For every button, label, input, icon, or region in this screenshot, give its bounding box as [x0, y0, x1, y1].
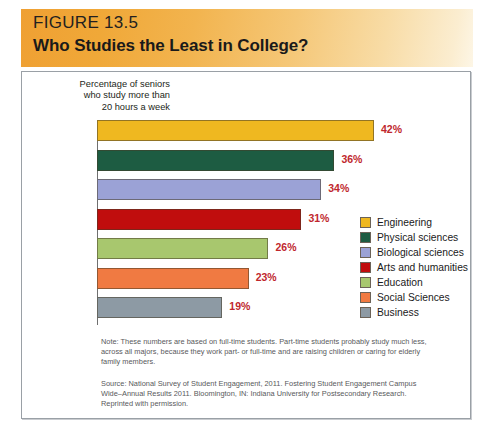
legend-swatch-icon: [360, 262, 371, 273]
bar-arts-and-humanities[interactable]: [97, 209, 301, 230]
bar-physical-sciences[interactable]: [97, 150, 334, 171]
legend-label: Education: [377, 277, 423, 288]
legend-item[interactable]: Physical sciences: [360, 230, 468, 245]
legend-item[interactable]: Social Sciences: [360, 290, 468, 305]
legend-swatch-icon: [360, 217, 371, 228]
legend-swatch-icon: [360, 232, 371, 243]
bar-social-sciences[interactable]: [97, 268, 249, 289]
bar-business[interactable]: [97, 297, 222, 318]
bar-value-label: 34%: [328, 182, 349, 194]
bar-value-label: 19%: [229, 300, 250, 312]
legend-item[interactable]: Education: [360, 275, 468, 290]
note-text: Note: These numbers are based on full-ti…: [101, 337, 431, 368]
legend-item[interactable]: Biological sciences: [360, 245, 468, 260]
bar-biological-sciences[interactable]: [97, 179, 321, 200]
axis-caption-line-2: who study more than: [30, 90, 170, 101]
bar-education[interactable]: [97, 238, 268, 259]
axis-caption-line-3: 20 hours a week: [30, 102, 170, 113]
legend-label: Business: [377, 307, 419, 318]
bar-value-label: 26%: [275, 241, 296, 253]
legend-label: Arts and humanities: [377, 262, 468, 273]
figure-title: Who Studies the Least in College?: [33, 36, 308, 56]
legend-swatch-icon: [360, 307, 371, 318]
axis-caption: Percentage of seniors who study more tha…: [30, 79, 170, 113]
legend-label: Biological sciences: [377, 247, 464, 258]
bar-engineering[interactable]: [97, 120, 374, 141]
legend-label: Physical sciences: [377, 232, 458, 243]
legend-swatch-icon: [360, 292, 371, 303]
bar-value-label: 42%: [381, 123, 402, 135]
legend-label: Engineering: [377, 217, 432, 228]
legend-item[interactable]: Arts and humanities: [360, 260, 468, 275]
chart-panel: Percentage of seniors who study more tha…: [21, 71, 471, 419]
bar-value-label: 36%: [341, 153, 362, 165]
legend-swatch-icon: [360, 247, 371, 258]
legend-item[interactable]: Business: [360, 305, 468, 320]
figure-header-band: FIGURE 13.5 Who Studies the Least in Col…: [21, 9, 473, 67]
legend-swatch-icon: [360, 277, 371, 288]
figure-card: FIGURE 13.5 Who Studies the Least in Col…: [0, 0, 499, 447]
legend-label: Social Sciences: [377, 292, 450, 303]
bar-value-label: 23%: [256, 271, 277, 283]
chart-legend: EngineeringPhysical sciencesBiological s…: [360, 215, 468, 320]
axis-caption-line-1: Percentage of seniors: [30, 79, 170, 90]
source-text: Source: National Survey of Student Engag…: [101, 379, 431, 410]
legend-item[interactable]: Engineering: [360, 215, 468, 230]
bar-value-label: 31%: [308, 212, 329, 224]
figure-number: FIGURE 13.5: [33, 13, 138, 33]
